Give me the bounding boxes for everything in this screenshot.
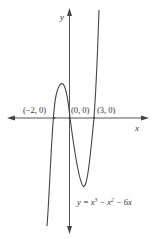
x-axis-label: x	[134, 123, 139, 133]
intercept-point	[69, 117, 71, 119]
intercept-point	[93, 117, 95, 119]
y-axis-down-arrow-icon	[67, 226, 72, 234]
x-axis-left-arrow-icon	[7, 116, 15, 121]
x-axis-right-arrow-icon	[141, 116, 149, 121]
y-axis-up-arrow-icon	[67, 8, 72, 16]
equation-label: y = x3 − x2 − 6x	[76, 197, 132, 207]
y-axis-label: y	[59, 12, 64, 22]
point-label-origin: (0, 0)	[71, 105, 90, 115]
x-axis	[7, 116, 149, 121]
intercept-point	[54, 117, 56, 119]
point-label-3: (3, 0)	[97, 105, 116, 115]
y-axis	[67, 8, 72, 234]
point-label-neg2: (−2, 0)	[23, 105, 46, 115]
cubic-graph: y x (−2, 0) (0, 0) (3, 0) y = x3 − x2 − …	[0, 0, 156, 239]
